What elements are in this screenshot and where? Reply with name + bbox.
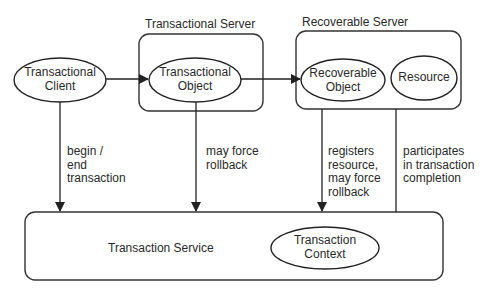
transactional-object-line1: Transactional [149,66,241,80]
transaction-context-label: Transaction Context [271,234,379,261]
recoverable-object-line1: Recoverable [301,67,385,81]
transaction-service-label: Transaction Service [108,242,214,256]
recoverable-server-label: Recoverable Server [302,16,408,30]
edge-label-begin-end: begin / end transaction [67,145,126,186]
edge-label-participates: participates in transaction completion [403,145,474,186]
resource-label: Resource [391,71,457,85]
transaction-context-line2: Context [271,248,379,262]
transaction-service-box [25,212,443,280]
transactional-server-label: Transactional Server [145,18,255,32]
edge-label-registers-resource: registers resource, may force rollback [328,145,381,199]
transactional-client-label: Transactional Client [14,66,106,93]
transactional-object-label: Transactional Object [149,66,241,93]
transactional-client-line1: Transactional [14,66,106,80]
transaction-context-line1: Transaction [271,234,379,248]
transactional-object-line2: Object [149,80,241,94]
recoverable-object-label: Recoverable Object [301,67,385,94]
recoverable-object-line2: Object [301,81,385,95]
edge-label-may-force-rollback: may force rollback [206,145,259,172]
transactional-client-line2: Client [14,80,106,94]
